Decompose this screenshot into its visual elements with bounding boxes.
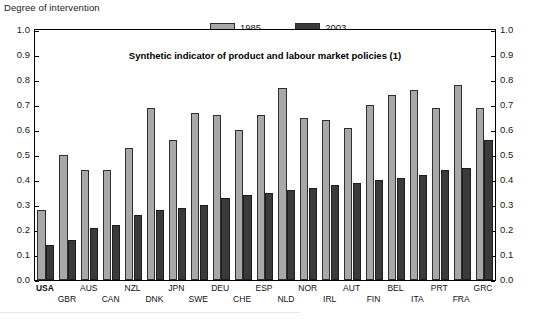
y-tick-label-left-0.9: 0.9	[2, 50, 30, 60]
y-tick-label-right-0.3: 0.3	[500, 200, 528, 210]
bar-che-2003	[243, 195, 251, 280]
bar-aus-1985	[81, 170, 89, 280]
bar-group-dnk	[147, 30, 164, 280]
bar-group-usa	[37, 30, 54, 280]
bar-swe-1985	[191, 113, 199, 281]
y-tick-label-left-1.0: 1.0	[2, 25, 30, 35]
bar-nld-2003	[287, 190, 295, 280]
bar-prt-1985	[432, 108, 440, 281]
bar-aut-1985	[344, 128, 352, 281]
y-axis-left: 0.00.10.20.30.40.50.60.70.80.91.0	[2, 29, 32, 281]
bar-gbr-2003	[68, 240, 76, 280]
x-tick-label-usa: USA	[30, 284, 60, 293]
y-tick-label-left-0.7: 0.7	[2, 100, 30, 110]
bar-group-deu	[213, 30, 230, 280]
bar-jpn-2003	[178, 208, 186, 281]
y-tick-label-left-0.3: 0.3	[2, 200, 30, 210]
bar-ita-2003	[419, 175, 427, 280]
bar-group-aut	[344, 30, 361, 280]
y-tick-label-right-0.1: 0.1	[500, 250, 528, 260]
bar-group-prt	[432, 30, 449, 280]
y-tick-label-right-0.7: 0.7	[500, 100, 528, 110]
x-tick-label-aut: AUT	[337, 284, 367, 293]
x-tick-label-nzl: NZL	[118, 284, 148, 293]
bar-irl-1985	[322, 120, 330, 280]
bar-che-1985	[235, 130, 243, 280]
y-tick-label-right-0.4: 0.4	[500, 175, 528, 185]
bar-nor-2003	[309, 188, 317, 281]
bar-fra-1985	[454, 85, 462, 280]
x-tick-label-che: CHE	[227, 295, 257, 304]
bars-layer	[35, 30, 495, 280]
bottom-edge-artifact	[0, 312, 300, 313]
bar-group-ita	[410, 30, 427, 280]
y-tick-label-left-0.1: 0.1	[2, 250, 30, 260]
x-tick-label-aus: AUS	[74, 284, 104, 293]
bar-group-gbr	[59, 30, 76, 280]
y-tick-label-left-0.4: 0.4	[2, 175, 30, 185]
x-tick-label-prt: PRT	[424, 284, 454, 293]
x-axis-labels: USAGBRAUSCANNZLDNKJPNSWEDEUCHEESPNLDNORI…	[34, 281, 496, 322]
bar-group-che	[235, 30, 252, 280]
y-tick-label-right-1.0: 1.0	[500, 25, 528, 35]
bar-group-esp	[257, 30, 274, 280]
bar-group-jpn	[169, 30, 186, 280]
bar-deu-2003	[221, 198, 229, 281]
bar-usa-2003	[46, 245, 54, 280]
x-tick-label-fin: FIN	[359, 295, 389, 304]
bar-grc-2003	[484, 140, 492, 280]
x-tick-label-irl: IRL	[315, 295, 345, 304]
chart-container: Degree of intervention 1985 2003 Synthet…	[0, 0, 534, 322]
x-tick-label-grc: GRC	[468, 284, 498, 293]
bar-fin-1985	[366, 105, 374, 280]
bar-group-bel	[388, 30, 405, 280]
x-tick-label-gbr: GBR	[52, 295, 82, 304]
bar-group-irl	[322, 30, 339, 280]
bar-group-nld	[278, 30, 295, 280]
bar-nzl-1985	[125, 148, 133, 281]
bar-fin-2003	[375, 180, 383, 280]
y-tick-label-left-0.6: 0.6	[2, 125, 30, 135]
y-tick-label-left-0.5: 0.5	[2, 150, 30, 160]
bar-nor-1985	[300, 118, 308, 281]
bar-group-fra	[454, 30, 471, 280]
y-tick-label-left-0.0: 0.0	[2, 275, 30, 285]
x-tick-label-nor: NOR	[293, 284, 323, 293]
bar-aut-2003	[353, 183, 361, 281]
x-tick-label-deu: DEU	[205, 284, 235, 293]
bar-bel-1985	[388, 95, 396, 280]
bar-nld-1985	[278, 88, 286, 281]
bar-group-can	[103, 30, 120, 280]
x-tick-label-can: CAN	[96, 295, 126, 304]
y-tick-label-right-0.2: 0.2	[500, 225, 528, 235]
bar-group-aus	[81, 30, 98, 280]
bar-grc-1985	[476, 108, 484, 281]
bar-nzl-2003	[134, 215, 142, 280]
bar-group-grc	[476, 30, 493, 280]
bar-usa-1985	[37, 210, 45, 280]
x-tick-label-bel: BEL	[380, 284, 410, 293]
bar-gbr-1985	[59, 155, 67, 280]
bar-swe-2003	[200, 205, 208, 280]
bar-fra-2003	[462, 168, 470, 281]
y-axis-right: 0.00.10.20.30.40.50.60.70.80.91.0	[500, 29, 530, 281]
x-tick-label-esp: ESP	[249, 284, 279, 293]
y-tick-label-left-0.2: 0.2	[2, 225, 30, 235]
bar-esp-2003	[265, 193, 273, 281]
x-tick-label-jpn: JPN	[161, 284, 191, 293]
x-tick-label-fra: FRA	[446, 295, 476, 304]
bar-can-1985	[103, 170, 111, 280]
y-tick-label-right-0.5: 0.5	[500, 150, 528, 160]
y-tick-label-right-0.9: 0.9	[500, 50, 528, 60]
y-axis-caption: Degree of intervention	[4, 2, 100, 13]
bar-group-swe	[191, 30, 208, 280]
bar-bel-2003	[397, 178, 405, 281]
y-tick-label-right-0.8: 0.8	[500, 75, 528, 85]
y-tick-label-right-0.6: 0.6	[500, 125, 528, 135]
bar-aus-2003	[90, 228, 98, 281]
bar-can-2003	[112, 225, 120, 280]
y-tick-label-right-0.0: 0.0	[500, 275, 528, 285]
bar-prt-2003	[441, 170, 449, 280]
x-tick-label-nld: NLD	[271, 295, 301, 304]
bar-irl-2003	[331, 185, 339, 280]
